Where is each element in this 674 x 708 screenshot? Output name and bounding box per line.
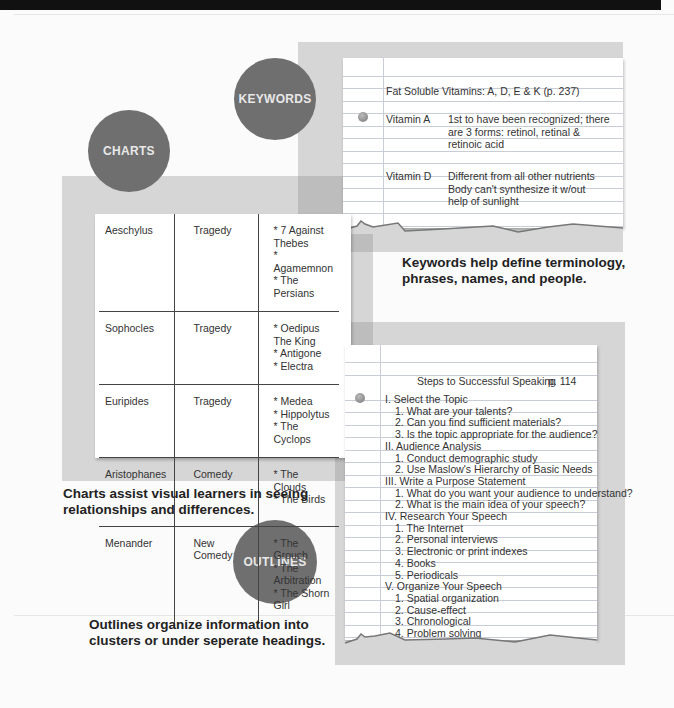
charts-caption: Charts assist visual learners in seeing … <box>63 486 308 518</box>
punch-hole <box>358 112 368 122</box>
keyword-term: Vitamin A <box>386 113 430 126</box>
outline-item: 2. What is the main idea of your speech? <box>395 498 585 510</box>
outline-item: 5. Periodicals <box>395 569 458 581</box>
torn-edge <box>345 630 597 646</box>
margin-line <box>380 345 381 640</box>
table-row: Euripides Tragedy * Medea * Hippolytus *… <box>99 385 339 458</box>
outline-page: p. 114 <box>548 375 576 387</box>
outline-title: Steps to Successful Speaking <box>417 375 556 387</box>
keywords-caption: Keywords help define terminology, phrase… <box>402 255 625 287</box>
outline-item: 4. Books <box>395 557 436 569</box>
outline-item: 2. Personal interviews <box>395 533 498 545</box>
outline-item: 2. Use Maslow's Hierarchy of Basic Needs <box>395 463 593 475</box>
outline-item: 1. What are your talents? <box>395 405 512 417</box>
keywords-heading: Fat Soluble Vitamins: A, D, E & K (p. 23… <box>386 85 580 98</box>
charts-table-card: Aeschylus Tragedy * 7 Against Thebes * A… <box>95 214 351 458</box>
charts-badge: CHARTS <box>88 110 170 192</box>
outline-item: I. Select the Topic <box>385 393 468 405</box>
outline-item: III. Write a Purpose Statement <box>385 475 525 487</box>
outline-item: II. Audience Analysis <box>385 440 481 452</box>
keywords-badge: KEYWORDS <box>234 58 316 140</box>
outline-item: V. Organize Your Speech <box>385 580 502 592</box>
outline-note-paper: Steps to Successful Speaking p. 114 I. S… <box>345 345 597 640</box>
greek-playwrights-table: Aeschylus Tragedy * 7 Against Thebes * A… <box>99 214 339 624</box>
outline-item: 1. The Internet <box>395 522 463 534</box>
torn-edge <box>343 218 623 234</box>
outline-item: 1. Conduct demographic study <box>395 452 537 464</box>
keyword-term: Vitamin D <box>386 170 431 183</box>
table-row: Aeschylus Tragedy * 7 Against Thebes * A… <box>99 214 339 312</box>
keywords-note-paper: Fat Soluble Vitamins: A, D, E & K (p. 23… <box>343 58 623 228</box>
table-row: Menander New Comedy * The Grouch * The A… <box>99 526 339 624</box>
margin-line <box>383 58 384 228</box>
outline-item: 1. Spatial organization <box>395 592 499 604</box>
table-row: Sophocles Tragedy * Oedipus The King * A… <box>99 312 339 385</box>
outlines-caption: Outlines organize information into clust… <box>89 617 325 649</box>
top-bar <box>0 0 661 10</box>
keyword-definition: Different from all other nutrients Body … <box>448 170 595 208</box>
outline-item: 2. Cause-effect <box>395 604 466 616</box>
outline-item: 3. Is the topic appropriate for the audi… <box>395 428 598 440</box>
keyword-definition: 1st to have been recognized; there are 3… <box>448 113 610 151</box>
outline-item: 3. Electronic or print indexes <box>395 545 527 557</box>
punch-hole <box>355 393 365 403</box>
outline-item: IV. Research Your Speech <box>385 510 507 522</box>
outline-item: 3. Chronological <box>395 615 471 627</box>
outline-item: 1. What do you want your audience to und… <box>395 487 633 499</box>
outline-item: 2. Can you find sufficient materials? <box>395 416 561 428</box>
